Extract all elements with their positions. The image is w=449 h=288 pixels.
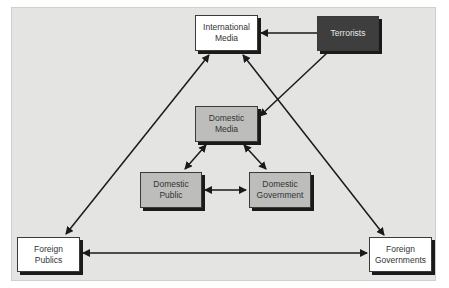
edge-domestic-media-domestic-public [185,145,206,169]
node-domestic-public: Domestic Public [140,172,202,208]
edge-terrorists-domestic-media [260,53,327,116]
node-terrorists: Terrorists [317,16,379,51]
node-domestic-government: Domestic Government [249,172,311,208]
node-domestic-media: Domestic Media [195,106,258,142]
node-international-media: International Media [195,15,258,51]
node-foreign-publics: Foreign Publics [17,237,80,272]
edge-domestic-media-domestic-government [244,145,266,169]
edge-intl-media-foreign-governments [243,55,384,235]
node-foreign-governments: Foreign Governments [369,237,432,272]
